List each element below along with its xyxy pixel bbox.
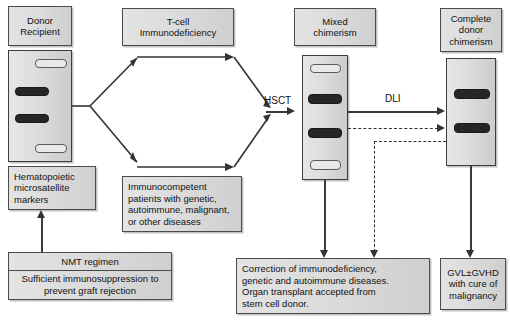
edge-mixed-to-correction-arrowhead — [320, 250, 328, 258]
edge-label-dli: DLI — [385, 93, 401, 104]
diagram-canvas: Donor Recipient Hematopoietic microsatel… — [0, 0, 510, 320]
upper-merge-diagonal — [234, 57, 268, 104]
correction-line-3: Organ transplant accepted from — [242, 286, 376, 298]
edge-dashed-complete-back-vertical — [374, 141, 375, 252]
correction-line-4: stem cell donor. — [242, 298, 309, 310]
complete-line-3: chimerism — [449, 36, 492, 48]
correction-line-2: genetic and autoimmune diseases. — [242, 275, 389, 287]
edge-dashed-complete-back-horizontal — [374, 141, 446, 142]
fork-up-arrowhead — [130, 58, 137, 67]
node-gvl-gvhd-outcome: GVL±GVHD with cure of malignancy — [440, 258, 506, 310]
node-complete-donor-chimerism: Complete donor chimerism — [440, 8, 502, 52]
edge-hsct-arrowhead — [287, 107, 295, 115]
complete-line-1: Complete — [451, 13, 492, 25]
edge-dashed-mixed-to-complete-line — [348, 128, 438, 129]
gvl-line-3: malignancy — [449, 290, 497, 302]
edge-dashed-mixed-to-complete-arrowhead — [437, 124, 445, 132]
complete-gel-band-dark-upper — [454, 89, 490, 99]
mixed-line-2: chimerism — [313, 27, 356, 39]
edge-dli-line — [348, 111, 438, 113]
edge-dashed-complete-back-arrowhead — [370, 250, 378, 258]
lower-horizontal-arrowhead — [225, 163, 234, 171]
gvl-line-2: with cure of — [449, 278, 498, 290]
edge-complete-to-gvl-arrowhead — [466, 250, 474, 258]
fork-up-diagonal — [90, 58, 137, 106]
correction-line-1: Correction of immunodeficiency, — [242, 263, 377, 275]
mixed-chimerism-gel — [302, 55, 348, 180]
complete-gel-band-dark-lower — [454, 123, 490, 133]
mixed-line-1: Mixed — [322, 16, 347, 28]
fork-down-arrowhead — [130, 152, 137, 163]
mixed-gel-band-light-bottom — [310, 160, 341, 170]
node-correction-outcome: Correction of immunodeficiency, genetic … — [236, 258, 430, 314]
upper-horizontal-arrowhead — [225, 53, 234, 61]
node-mixed-chimerism: Mixed chimerism — [294, 8, 376, 46]
edge-dli-arrowhead — [437, 107, 445, 115]
edge-label-hsct: HSCT — [264, 95, 291, 106]
lower-merge-diagonal — [234, 118, 268, 167]
fork-down-diagonal — [90, 106, 137, 162]
lower-merge-arrowhead — [263, 114, 271, 122]
complete-donor-chimerism-gel — [446, 58, 496, 166]
edge-complete-to-gvl-line — [470, 166, 472, 252]
edge-mixed-to-correction-line — [324, 180, 326, 252]
edge-hsct-line — [266, 111, 288, 113]
gvl-line-1: GVL±GVHD — [447, 267, 499, 279]
mixed-gel-band-light-top — [310, 64, 341, 73]
complete-line-2: donor — [459, 24, 483, 36]
mixed-gel-band-dark-lower — [308, 128, 342, 138]
mixed-gel-band-dark-upper — [308, 94, 342, 104]
